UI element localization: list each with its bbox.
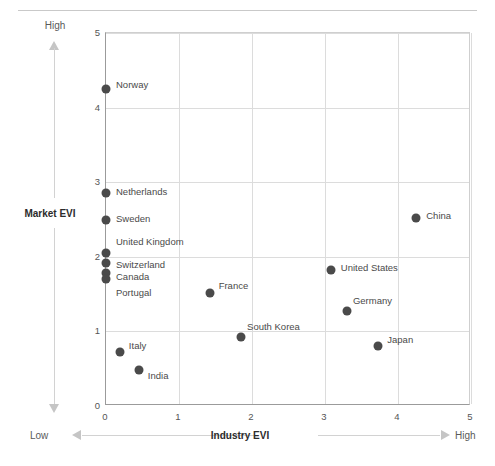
- data-point[interactable]: [102, 258, 111, 267]
- gridline-vertical: [179, 33, 180, 404]
- data-point-label: Netherlands: [116, 187, 167, 197]
- data-point-label: Italy: [129, 341, 146, 351]
- market-evi-axis-annotation: High Market EVI: [0, 0, 105, 430]
- gridline-vertical: [398, 33, 399, 404]
- x-axis-title: Industry EVI: [190, 430, 290, 441]
- x-tick-label: 0: [95, 411, 115, 422]
- data-point[interactable]: [134, 366, 143, 375]
- data-point[interactable]: [205, 288, 214, 297]
- gridline-vertical: [471, 33, 472, 404]
- data-point-label: India: [148, 371, 169, 381]
- gridline-horizontal: [106, 257, 469, 258]
- data-point[interactable]: [102, 249, 111, 258]
- data-point-label: Japan: [387, 335, 413, 345]
- data-point-label: France: [219, 281, 249, 291]
- data-point-label: Germany: [353, 296, 392, 306]
- x-axis-line-right: [318, 435, 440, 436]
- data-point-label: Canada: [116, 272, 149, 282]
- scatter-plot-area: NorwayNetherlandsSwedenUnited KingdomSwi…: [105, 32, 470, 405]
- data-point[interactable]: [342, 306, 351, 315]
- data-point[interactable]: [237, 333, 246, 342]
- gridline-horizontal: [106, 182, 469, 183]
- y-tick-label: 3: [80, 176, 100, 187]
- data-point[interactable]: [412, 214, 421, 223]
- y-axis-line-upper: [54, 48, 55, 198]
- gridline-horizontal: [106, 108, 469, 109]
- data-point-label: Switzerland: [116, 260, 165, 270]
- x-tick-label: 2: [241, 411, 261, 422]
- x-tick-label: 3: [314, 411, 334, 422]
- x-axis-right-arrow-icon: [441, 430, 450, 440]
- y-tick-label: 1: [80, 325, 100, 336]
- x-axis-high-label: High: [455, 430, 476, 441]
- data-point-label: Sweden: [116, 214, 150, 224]
- x-tick-label: 4: [387, 411, 407, 422]
- data-point[interactable]: [102, 215, 111, 224]
- y-axis-high-label: High: [30, 20, 80, 31]
- gridline-vertical: [325, 33, 326, 404]
- data-point-label: Norway: [116, 80, 148, 90]
- data-point[interactable]: [102, 84, 111, 93]
- data-point[interactable]: [102, 189, 111, 198]
- x-tick-label: 5: [460, 411, 480, 422]
- x-axis-low-label: Low: [30, 430, 48, 441]
- y-axis-line-lower: [54, 228, 55, 408]
- y-tick-label: 0: [80, 400, 100, 411]
- x-tick-label: 1: [168, 411, 188, 422]
- gridline-horizontal: [106, 33, 469, 34]
- y-axis-down-arrow-icon: [49, 404, 59, 413]
- x-axis-left-arrow-icon: [72, 430, 81, 440]
- y-tick-label: 4: [80, 101, 100, 112]
- gridline-vertical: [252, 33, 253, 404]
- y-tick-label: 2: [80, 250, 100, 261]
- y-tick-label: 5: [80, 27, 100, 38]
- data-point[interactable]: [374, 342, 383, 351]
- data-point-label: South Korea: [247, 322, 300, 332]
- data-point-label: United Kingdom: [116, 237, 184, 247]
- data-point-label: China: [426, 211, 451, 221]
- data-point[interactable]: [326, 266, 335, 275]
- data-point-label: Portugal: [116, 288, 151, 298]
- y-axis-title: Market EVI: [0, 206, 100, 221]
- data-point[interactable]: [115, 348, 124, 357]
- data-point-label: United States: [341, 263, 398, 273]
- data-point[interactable]: [102, 275, 111, 284]
